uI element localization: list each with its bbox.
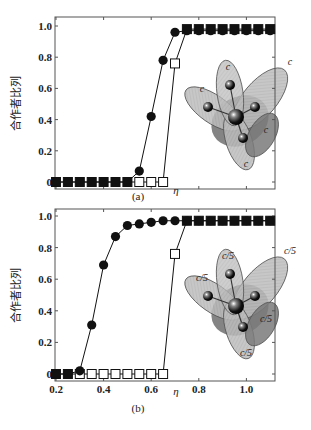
- figure: ccccc00.20.40.60.81.0合作者比列η(a) c/5c/5c/5…: [0, 0, 311, 430]
- inset-label: c/5: [260, 313, 272, 324]
- circle-marker: [63, 177, 72, 186]
- circle-marker: [170, 216, 179, 225]
- circle-marker: [123, 177, 132, 186]
- circle-marker: [87, 320, 96, 329]
- inset-label: c/5: [196, 272, 208, 283]
- circle-marker: [135, 166, 144, 175]
- circle-marker: [206, 26, 215, 35]
- y-tick-label: 0.6: [38, 82, 52, 94]
- circle-marker: [182, 26, 191, 35]
- inset-label: c/5: [240, 347, 252, 358]
- inset-label: c/5: [284, 245, 296, 256]
- inset-label: c: [200, 83, 205, 94]
- y-tick-label: 0.2: [38, 145, 52, 157]
- x-tick-label: 0.8: [192, 383, 206, 395]
- circle-marker: [123, 221, 132, 230]
- circle-marker: [182, 216, 191, 225]
- circle-marker: [51, 369, 60, 378]
- circle-marker: [99, 177, 108, 186]
- x-tick-label: 0.4: [97, 383, 111, 395]
- inset-ball: [250, 291, 260, 301]
- circle-marker: [194, 216, 203, 225]
- inset-label: c: [264, 124, 269, 135]
- y-tick-label: 0.4: [38, 114, 52, 126]
- circle-marker: [87, 177, 96, 186]
- inset-diagram: c/5c/5c/5c/5c/5: [178, 245, 298, 363]
- square-marker: [147, 370, 156, 379]
- circle-marker: [230, 26, 239, 35]
- inset-ball: [203, 291, 213, 301]
- inset-ball: [238, 322, 248, 332]
- square-marker: [99, 370, 108, 379]
- circle-marker: [230, 216, 239, 225]
- y-tick-label: 0.8: [38, 242, 52, 254]
- circle-marker: [194, 26, 203, 35]
- panel-label: (b): [132, 402, 145, 415]
- panel-label: (a): [132, 190, 145, 203]
- y-tick-label: 1.0: [38, 20, 52, 32]
- square-marker: [135, 370, 144, 379]
- circle-marker: [218, 216, 227, 225]
- circle-marker: [75, 366, 84, 375]
- circle-marker: [63, 369, 72, 378]
- y-axis-title: 合作者比列: [9, 76, 23, 131]
- inset-ball: [225, 269, 235, 279]
- inset-label: c: [244, 158, 249, 169]
- square-marker: [135, 178, 144, 187]
- circle-marker: [266, 216, 275, 225]
- circle-marker: [206, 216, 215, 225]
- square-marker: [111, 370, 120, 379]
- square-marker: [87, 370, 96, 379]
- circle-marker: [111, 177, 120, 186]
- square-marker: [171, 59, 180, 68]
- inset-ball: [203, 102, 213, 112]
- circle-marker: [254, 216, 263, 225]
- x-axis-title: η: [173, 184, 178, 196]
- circle-marker: [111, 232, 120, 241]
- inset-label: c: [226, 61, 231, 72]
- circle-marker: [135, 219, 144, 228]
- panel-a: ccccc00.20.40.60.81.0合作者比列η(a): [9, 17, 297, 203]
- circle-marker: [242, 216, 251, 225]
- square-marker: [123, 370, 132, 379]
- inset-diagram: ccccc: [178, 56, 298, 174]
- inset-label: c: [288, 56, 293, 67]
- x-axis-title: η: [173, 385, 178, 397]
- y-tick-label: 0.8: [38, 51, 52, 63]
- x-tick-label: 1.0: [240, 383, 254, 395]
- circle-marker: [218, 26, 227, 35]
- circle-marker: [266, 26, 275, 35]
- square-marker: [147, 178, 156, 187]
- inset-center-ball: [228, 298, 244, 314]
- inset-ball: [238, 133, 248, 143]
- circle-marker: [51, 177, 60, 186]
- circle-marker: [170, 28, 179, 37]
- x-tick-label: 0.6: [144, 383, 158, 395]
- circle-marker: [147, 112, 156, 121]
- square-marker: [159, 370, 168, 379]
- y-axis-title: 合作者比列: [9, 268, 23, 323]
- circle-marker: [159, 216, 168, 225]
- square-marker: [159, 178, 168, 187]
- inset-center-ball: [228, 109, 244, 125]
- y-tick-label: 1.0: [38, 210, 52, 222]
- panel-b: c/5c/5c/5c/5c/500.20.40.60.81.00.20.40.6…: [9, 209, 297, 415]
- circle-marker: [99, 260, 108, 269]
- circle-marker: [159, 56, 168, 65]
- x-tick-label: 0.2: [49, 383, 63, 395]
- y-tick-label: 0.2: [38, 336, 52, 348]
- inset-ball: [225, 80, 235, 90]
- y-tick-label: 0.6: [38, 273, 52, 285]
- inset-label: c/5: [222, 250, 234, 261]
- square-marker: [171, 249, 180, 258]
- circle-marker: [242, 26, 251, 35]
- inset-ball: [250, 102, 260, 112]
- circle-marker: [75, 177, 84, 186]
- circle-marker: [147, 218, 156, 227]
- y-tick-label: 0.4: [38, 305, 52, 317]
- circle-marker: [254, 26, 263, 35]
